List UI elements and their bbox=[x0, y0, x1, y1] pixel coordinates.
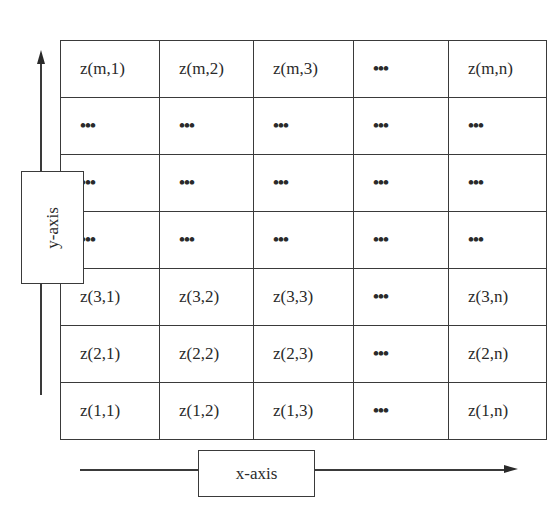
grid-cell: z(1,1) bbox=[61, 383, 160, 440]
grid-cell: z(1,3) bbox=[254, 383, 354, 440]
grid-cell: ••• bbox=[449, 98, 547, 155]
grid-cell: ••• bbox=[354, 326, 449, 383]
y-axis-arrowhead-icon bbox=[37, 50, 45, 64]
grid-cell: ••• bbox=[254, 98, 354, 155]
grid-row: z(m,1)z(m,2)z(m,3)•••z(m,n) bbox=[61, 41, 547, 98]
grid-cell: ••• bbox=[449, 155, 547, 212]
grid-cell: z(m,3) bbox=[254, 41, 354, 98]
x-axis-arrowhead-icon bbox=[504, 465, 518, 473]
z-value-grid: z(m,1)z(m,2)z(m,3)•••z(m,n)•••••••••••••… bbox=[60, 40, 547, 440]
grid-cell: ••• bbox=[354, 269, 449, 326]
grid-cell: ••• bbox=[61, 98, 160, 155]
grid-row: z(3,1)z(3,2)z(3,3)•••z(3,n) bbox=[61, 269, 547, 326]
grid-cell: ••• bbox=[254, 155, 354, 212]
grid-cell: z(m,2) bbox=[160, 41, 254, 98]
grid-cell: z(3,n) bbox=[449, 269, 547, 326]
grid-cell: ••• bbox=[160, 212, 254, 269]
grid-cell: ••• bbox=[354, 383, 449, 440]
grid-cell: ••• bbox=[354, 98, 449, 155]
grid-cell: z(3,2) bbox=[160, 269, 254, 326]
grid-cell: ••• bbox=[354, 212, 449, 269]
grid-cell: ••• bbox=[254, 212, 354, 269]
x-axis-label-box: x-axis bbox=[198, 450, 315, 497]
grid-row: z(2,1)z(2,2)z(2,3)•••z(2,n) bbox=[61, 326, 547, 383]
grid-row: ••••••••••••••• bbox=[61, 155, 547, 212]
grid-cell: ••• bbox=[449, 212, 547, 269]
grid-cell: z(2,2) bbox=[160, 326, 254, 383]
grid-cell: ••• bbox=[160, 98, 254, 155]
grid-cell: ••• bbox=[354, 41, 449, 98]
grid-row: ••••••••••••••• bbox=[61, 212, 547, 269]
grid-row: ••••••••••••••• bbox=[61, 98, 547, 155]
grid-cell: z(1,2) bbox=[160, 383, 254, 440]
grid-cell: z(2,1) bbox=[61, 326, 160, 383]
grid-row: z(1,1)z(1,2)z(1,3)•••z(1,n) bbox=[61, 383, 547, 440]
y-axis-label: y-axis bbox=[42, 207, 62, 249]
grid-cell: z(3,3) bbox=[254, 269, 354, 326]
grid-cell: z(2,3) bbox=[254, 326, 354, 383]
grid-cell: ••• bbox=[354, 155, 449, 212]
y-axis-label-box: y-axis bbox=[21, 171, 84, 284]
grid-cell: z(2,n) bbox=[449, 326, 547, 383]
grid-cell: z(m,n) bbox=[449, 41, 547, 98]
grid-cell: ••• bbox=[160, 155, 254, 212]
grid-cell: z(m,1) bbox=[61, 41, 160, 98]
grid-body: z(m,1)z(m,2)z(m,3)•••z(m,n)•••••••••••••… bbox=[61, 41, 547, 440]
grid-cell: z(1,n) bbox=[449, 383, 547, 440]
x-axis-label: x-axis bbox=[236, 464, 278, 484]
